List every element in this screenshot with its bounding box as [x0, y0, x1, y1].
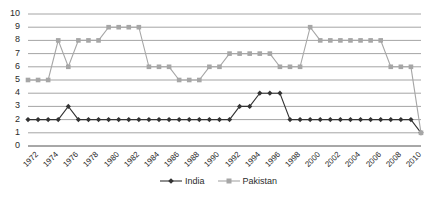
y-tick-label: 3	[2, 101, 20, 110]
line-chart: 012345678910 197219741976197819801982198…	[0, 0, 437, 202]
data-point	[106, 117, 111, 122]
y-tick-label: 0	[2, 141, 20, 150]
data-point	[187, 117, 192, 122]
data-point	[197, 117, 202, 122]
data-point	[348, 117, 353, 122]
data-point	[278, 65, 283, 70]
data-point	[147, 65, 152, 70]
data-point	[157, 65, 162, 70]
data-point	[368, 38, 373, 43]
data-point	[177, 78, 182, 83]
data-point	[388, 65, 393, 70]
data-point	[217, 117, 222, 122]
data-point	[308, 117, 313, 122]
data-point	[398, 117, 403, 122]
data-point	[378, 38, 383, 43]
y-tick-label: 6	[2, 62, 20, 71]
data-point	[237, 51, 242, 56]
data-point	[86, 38, 91, 43]
data-point	[137, 25, 142, 30]
data-point	[227, 51, 232, 56]
legend-item-india[interactable]: India	[160, 176, 205, 186]
data-point	[268, 51, 273, 56]
y-tick-label: 5	[2, 75, 20, 84]
data-point	[287, 117, 292, 122]
data-point	[76, 38, 81, 43]
data-point	[66, 65, 71, 70]
data-point	[298, 65, 303, 70]
data-point	[25, 117, 30, 122]
data-point	[35, 117, 40, 122]
series-line-india	[28, 93, 421, 133]
data-point	[26, 78, 31, 83]
data-point	[308, 25, 313, 30]
y-tick-label: 2	[2, 115, 20, 124]
data-point	[409, 65, 414, 70]
data-point	[126, 25, 131, 30]
legend-marker-icon	[160, 176, 182, 186]
data-point	[399, 65, 404, 70]
data-point	[207, 117, 212, 122]
data-point	[197, 78, 202, 83]
y-tick-label: 8	[2, 35, 20, 44]
data-point	[257, 51, 262, 56]
legend-marker-icon	[218, 176, 240, 186]
chart-plot-area	[0, 0, 437, 202]
data-point	[267, 91, 272, 96]
data-point	[96, 117, 101, 122]
data-point	[419, 131, 424, 136]
data-point	[358, 117, 363, 122]
y-tick-label: 4	[2, 88, 20, 97]
data-point	[207, 65, 212, 70]
data-point	[378, 117, 383, 122]
data-point	[166, 117, 171, 122]
data-point	[46, 78, 51, 83]
chart-legend: IndiaPakistan	[0, 176, 437, 186]
data-point	[126, 117, 131, 122]
data-point	[247, 51, 252, 56]
data-point	[338, 38, 343, 43]
legend-label: India	[185, 176, 205, 186]
legend-item-pakistan[interactable]: Pakistan	[218, 176, 278, 186]
data-point	[156, 117, 161, 122]
data-point	[348, 38, 353, 43]
y-tick-label: 1	[2, 128, 20, 137]
legend-label: Pakistan	[243, 176, 278, 186]
data-point	[388, 117, 393, 122]
data-point	[116, 25, 121, 30]
data-point	[116, 117, 121, 122]
y-tick-label: 9	[2, 22, 20, 31]
data-point	[217, 65, 222, 70]
data-point	[187, 78, 192, 83]
data-point	[288, 65, 293, 70]
data-point	[136, 117, 141, 122]
data-point	[36, 78, 41, 83]
data-point	[318, 38, 323, 43]
data-point	[297, 117, 302, 122]
data-point	[167, 65, 172, 70]
data-point	[46, 117, 51, 122]
y-tick-label: 10	[2, 9, 20, 18]
data-point	[146, 117, 151, 122]
data-point	[96, 38, 101, 43]
data-point	[56, 38, 61, 43]
data-point	[328, 117, 333, 122]
data-point	[177, 117, 182, 122]
data-point	[328, 38, 333, 43]
data-point	[277, 91, 282, 96]
data-point	[318, 117, 323, 122]
data-point	[86, 117, 91, 122]
data-point	[368, 117, 373, 122]
data-point	[106, 25, 111, 30]
data-point	[358, 38, 363, 43]
data-point	[338, 117, 343, 122]
y-tick-label: 7	[2, 49, 20, 58]
